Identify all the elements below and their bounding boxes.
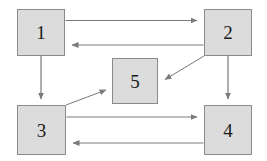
- node-box-5[interactable]: 5: [112, 58, 158, 104]
- node-box-4[interactable]: 4: [204, 105, 252, 155]
- edge-2-to-5: [165, 56, 204, 80]
- node-label-2: 2: [223, 23, 233, 42]
- node-box-2[interactable]: 2: [204, 9, 252, 56]
- edge-3-to-5: [66, 90, 106, 105]
- node-label-1: 1: [36, 23, 46, 42]
- node-label-5: 5: [130, 72, 140, 91]
- node-label-4: 4: [223, 121, 233, 140]
- block-diagram: 1 2 5 3 4: [0, 0, 267, 161]
- node-label-3: 3: [37, 121, 47, 140]
- node-box-3[interactable]: 3: [17, 105, 66, 155]
- node-box-1[interactable]: 1: [17, 9, 65, 56]
